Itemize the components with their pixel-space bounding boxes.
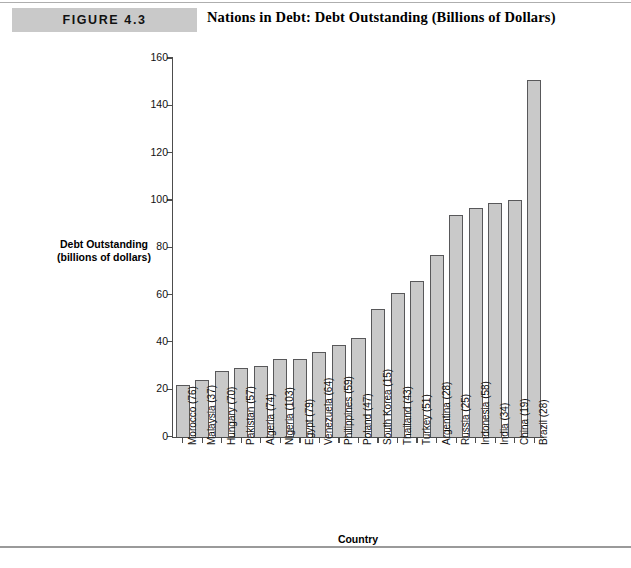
x-axis-category-labels: Morocco (76)Malaysia (37)Hungary (70)Pak… <box>173 444 544 530</box>
x-axis-category-label: Malaysia (37) <box>195 444 209 456</box>
y-axis-title: Debt Outstanding (billions of dollars) <box>40 238 168 264</box>
x-axis-category-label: Hungary (70) <box>215 444 229 456</box>
y-axis-tick-label: 20 <box>144 382 168 394</box>
y-axis-tick-label-wrap: 20 <box>134 382 172 383</box>
y-axis-tick-label: 0 <box>144 430 168 442</box>
x-axis-category-label-text: Argentina (28) <box>441 382 452 445</box>
bar-slot <box>234 58 248 437</box>
x-axis-tick <box>495 438 496 443</box>
x-axis-tick <box>299 438 300 443</box>
x-axis-category-label: Venezuela (64) <box>312 444 326 456</box>
x-axis-category-label-text: Venezuela (64) <box>323 378 334 445</box>
x-axis-tick <box>475 438 476 443</box>
y-axis-tick-label: 140 <box>144 98 168 110</box>
y-axis-tick-label-wrap: 60 <box>134 288 172 289</box>
x-axis-category-label-text: Russia (25) <box>460 394 471 445</box>
x-axis-tick <box>241 438 242 443</box>
x-axis-category-label-text: Morocco (76) <box>187 386 198 445</box>
bar-slot <box>527 58 541 437</box>
x-axis-tick <box>260 438 261 443</box>
x-axis-category-label: Pakistan (57) <box>234 444 248 456</box>
x-axis-tick <box>534 438 535 443</box>
x-axis-tick <box>182 438 183 443</box>
x-axis-category-label: Indonesia (58) <box>469 444 483 456</box>
x-axis-category-label-text: Malaysia (37) <box>206 385 217 445</box>
bar-slot <box>410 58 424 437</box>
x-axis-category-label: South Korea (15) <box>371 444 385 456</box>
y-axis-title-line-1: Debt Outstanding <box>40 238 168 251</box>
bar-slot <box>195 58 209 437</box>
bar-slot <box>430 58 444 437</box>
x-axis-tick <box>280 438 281 443</box>
x-axis-tick <box>397 438 398 443</box>
x-axis-category-label: Turkey (51) <box>410 444 424 456</box>
y-axis-tick-label: 160 <box>144 51 168 63</box>
x-axis-category-label: Russia (25) <box>449 444 463 456</box>
x-axis-tick <box>338 438 339 443</box>
chart-plot-area: 020406080100120140160 Debt Outstanding (… <box>0 0 631 568</box>
x-axis-category-label: Poland (47) <box>351 444 365 456</box>
x-axis-category-label-text: Poland (47) <box>362 393 373 445</box>
y-axis-tick-label-wrap: 100 <box>134 193 172 194</box>
x-axis-category-label: Nigeria (103) <box>273 444 287 456</box>
y-axis-tick-label-wrap: 120 <box>134 146 172 147</box>
x-axis-tick <box>221 438 222 443</box>
x-axis-tick <box>358 438 359 443</box>
x-axis-category-label-text: Nigeria (103) <box>284 387 295 445</box>
x-axis-category-label: Philippines (59) <box>332 444 346 456</box>
x-axis-category-label-text: Thailand (43) <box>402 386 413 445</box>
y-axis-tick-label: 120 <box>144 146 168 158</box>
x-axis-category-label: Morocco (76) <box>176 444 190 456</box>
x-axis-category-label-text: Algeria (74) <box>265 393 276 445</box>
bar[interactable] <box>527 80 541 437</box>
x-axis-category-label-text: Egypt (79) <box>304 399 315 445</box>
x-axis-category-label-text: Brazil (28) <box>538 399 549 445</box>
x-axis-category-label-text: Turkey (51) <box>421 394 432 445</box>
x-axis-category-label-text: China (19) <box>519 398 530 445</box>
x-axis-category-label: Argentina (28) <box>430 444 444 456</box>
x-axis-category-label-text: India (34) <box>499 403 510 445</box>
y-axis-tick-label: 60 <box>144 288 168 300</box>
y-axis-tick-label-wrap: 0 <box>134 430 172 431</box>
x-axis-title: Country <box>172 533 544 545</box>
y-axis-tick-label: 100 <box>144 193 168 205</box>
bar-slot <box>293 58 307 437</box>
x-axis-category-label: Brazil (28) <box>527 444 541 456</box>
x-axis-category-label-text: Indonesia (58) <box>480 381 491 445</box>
y-axis-title-line-2: (billions of dollars) <box>40 251 168 264</box>
x-axis-tick <box>514 438 515 443</box>
x-axis-category-label-text: Hungary (70) <box>226 387 237 445</box>
bar-slot <box>508 58 522 437</box>
x-axis-category-label-text: Philippines (59) <box>343 376 354 445</box>
y-axis-tick-label-wrap: 40 <box>134 335 172 336</box>
y-axis-tick-label: 40 <box>144 335 168 347</box>
x-axis-category-label: Egypt (79) <box>293 444 307 456</box>
bar-slot <box>215 58 229 437</box>
x-axis-category-label: Algeria (74) <box>254 444 268 456</box>
x-axis-tick <box>436 438 437 443</box>
y-axis-tick-label-wrap: 160 <box>134 51 172 52</box>
bar-slot <box>176 58 190 437</box>
x-axis-tick <box>456 438 457 443</box>
x-axis-tick <box>377 438 378 443</box>
figure-root: FIGURE 4.3 Nations in Debt: Debt Outstan… <box>0 0 631 568</box>
bar-slot <box>273 58 287 437</box>
x-axis-category-label-text: Pakistan (57) <box>245 386 256 445</box>
bar-slot <box>254 58 268 437</box>
x-axis-category-label: India (34) <box>488 444 502 456</box>
x-axis-tick <box>319 438 320 443</box>
x-axis-category-label: Thailand (43) <box>391 444 405 456</box>
bar-slot <box>449 58 463 437</box>
bottom-divider <box>0 546 631 548</box>
x-axis-category-label-text: South Korea (15) <box>382 369 393 445</box>
x-axis-category-label: China (19) <box>508 444 522 456</box>
x-axis-tick <box>202 438 203 443</box>
y-axis-tick-label-wrap: 140 <box>134 98 172 99</box>
x-axis-tick <box>416 438 417 443</box>
